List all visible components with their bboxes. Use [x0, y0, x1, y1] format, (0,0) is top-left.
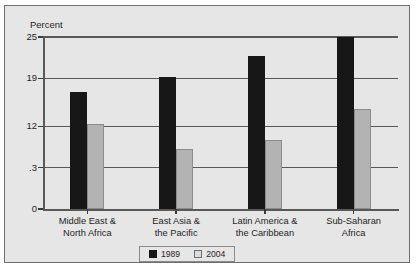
legend-entry-2004: 2004: [194, 249, 225, 259]
bar-2004-latin-america-the-caribbean: [265, 140, 282, 209]
category-label-line: Middle East &: [43, 216, 132, 228]
category-label-line: East Asia &: [132, 216, 221, 228]
x-axis-line: [43, 209, 399, 211]
chart-plot-wrapper: Percent 251912.30 Middle East &North Afr…: [5, 6, 411, 264]
y-tick-label-box: 25: [5, 31, 37, 43]
y-tick-label-box: 0: [5, 203, 37, 215]
x-tick-mark: [87, 209, 89, 214]
legend-swatch-icon: [149, 250, 157, 258]
y-tick-label: 19: [26, 72, 37, 83]
x-tick-mark: [353, 209, 355, 214]
y-tick-mark: [38, 36, 43, 38]
x-tick-mark: [264, 209, 266, 214]
y-tick-mark: [38, 167, 43, 169]
category-label-line: the Pacific: [132, 228, 221, 240]
bar-2004-middle-east-north-africa: [87, 124, 104, 209]
x-tick-mark: [175, 209, 177, 214]
y-tick-label-box: 19: [5, 72, 37, 84]
clipped-header-text: ……………………: [0, 0, 416, 2]
y-tick-mark: [38, 126, 43, 128]
legend-label: 2004: [206, 249, 225, 259]
category-label-line: North Africa: [43, 228, 132, 240]
chart-legend: 19892004: [139, 246, 235, 262]
y-tick-label-box: .3: [5, 162, 37, 174]
category-label-line: the Caribbean: [221, 228, 310, 240]
y-tick-label-box: 12: [5, 120, 37, 132]
category-label: Middle East &North Africa: [43, 216, 132, 239]
legend-entry-1989: 1989: [149, 249, 180, 259]
bar-2004-east-asia-the-pacific: [176, 149, 193, 209]
bar-1989-middle-east-north-africa: [70, 92, 87, 209]
y-tick-label: 0: [32, 203, 37, 214]
chart-figure-frame: Percent 251912.30 Middle East &North Afr…: [4, 5, 410, 263]
bar-1989-east-asia-the-pacific: [159, 77, 176, 209]
y-tick-label: 12: [26, 120, 37, 131]
bar-2004-sub-saharan-africa: [354, 109, 371, 209]
y-axis-line: [43, 37, 45, 211]
bar-1989-latin-america-the-caribbean: [248, 56, 265, 209]
y-tick-label: .3: [29, 162, 37, 173]
legend-swatch-icon: [194, 250, 202, 258]
category-label: Latin America &the Caribbean: [221, 216, 310, 239]
y-axis-title: Percent: [30, 19, 63, 30]
category-label-line: Latin America &: [221, 216, 310, 228]
y-tick-label: 25: [26, 31, 37, 42]
legend-label: 1989: [161, 249, 180, 259]
category-label-line: Sub-Saharan: [309, 216, 398, 228]
y-tick-mark: [38, 78, 43, 80]
category-label: East Asia &the Pacific: [132, 216, 221, 239]
bar-1989-sub-saharan-africa: [337, 37, 354, 209]
y-tick-mark: [38, 208, 43, 210]
category-label-line: Africa: [309, 228, 398, 240]
category-label: Sub-SaharanAfrica: [309, 216, 398, 239]
